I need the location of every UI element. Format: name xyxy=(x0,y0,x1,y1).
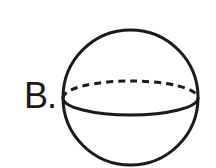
equator-back-dashed xyxy=(63,81,198,98)
sphere-diagram: B. xyxy=(0,0,216,168)
equator-front-solid xyxy=(63,98,198,115)
sphere-outline xyxy=(63,30,198,165)
sphere-icon xyxy=(0,0,216,168)
